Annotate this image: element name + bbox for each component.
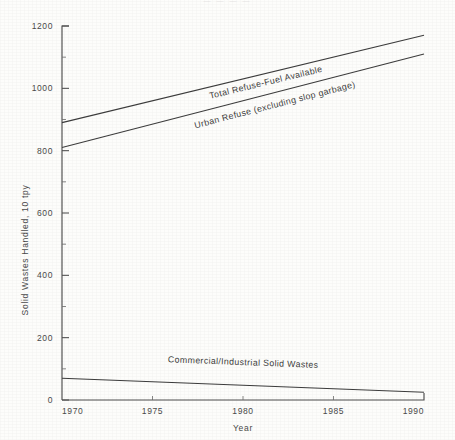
series-line: [62, 378, 424, 392]
chart-figure: — — — — 020040060080010001200 1970197519…: [0, 0, 455, 440]
y-tick-label: 0: [48, 395, 53, 405]
y-axis-title: Solid Wastes Handled, 10 tpy: [20, 185, 30, 316]
y-tick-label: 1000: [32, 83, 53, 93]
y-tick-label: 400: [37, 270, 53, 280]
series-labels-group: Total Refuse-Fuel AvailableUrban Refuse …: [168, 64, 357, 370]
x-tick-label: 1990: [403, 406, 424, 416]
x-axis-title: Year: [233, 423, 253, 433]
y-tick-label: 800: [37, 146, 53, 156]
x-tick-label: 1970: [62, 406, 83, 416]
y-axis-tick-labels: 020040060080010001200: [32, 21, 53, 405]
y-tick-label: 600: [37, 208, 53, 218]
x-tick-label: 1980: [232, 406, 253, 416]
x-tick-label: 1985: [323, 406, 344, 416]
series-annotation: Commercial/Industrial Solid Wastes: [168, 354, 319, 370]
series-annotation: Urban Refuse (excluding slop garbage): [193, 79, 356, 130]
series-line: [62, 54, 424, 148]
x-axis-ticks: [153, 396, 334, 400]
y-tick-label: 1200: [32, 21, 53, 31]
line-chart-canvas: 020040060080010001200 197019751980198519…: [0, 0, 455, 440]
y-tick-label: 200: [37, 333, 53, 343]
x-tick-label: 1975: [142, 406, 163, 416]
x-axis-tick-labels: 19701975198019851990: [62, 406, 424, 416]
y-axis-ticks: [62, 26, 69, 400]
top-cut-text: — — — —: [0, 0, 455, 4]
